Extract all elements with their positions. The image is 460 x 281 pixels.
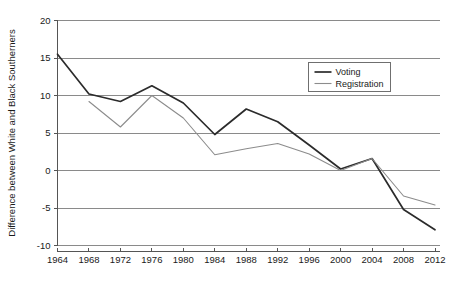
- x-tick-label: 2004: [362, 254, 383, 265]
- y-tick-label: -10: [37, 240, 51, 251]
- x-tick-label: 1988: [236, 254, 257, 265]
- chart-legend: VotingRegistration: [309, 63, 391, 92]
- legend-label-voting: Voting: [336, 67, 361, 77]
- y-tick-label: 0: [45, 165, 50, 176]
- legend-label-registration: Registration: [336, 79, 384, 89]
- y-axis-title-text: Difference between White and Black South…: [6, 29, 17, 237]
- y-tick-label: 15: [40, 52, 51, 63]
- x-tick-label: 2000: [330, 254, 351, 265]
- y-tick-label: 20: [40, 15, 51, 26]
- y-axis-title: Difference between White and Black South…: [6, 29, 17, 237]
- x-tick-label: 1980: [173, 254, 194, 265]
- x-tick-label: 1992: [267, 254, 288, 265]
- x-tick-label: 2012: [424, 254, 445, 265]
- chart-container: 20151050-5-10 19641968197219761980198419…: [0, 0, 460, 281]
- x-tick-label: 1972: [110, 254, 131, 265]
- y-tick-label: 5: [45, 127, 50, 138]
- line-chart: 20151050-5-10 19641968197219761980198419…: [0, 0, 460, 281]
- x-tick-label: 1976: [141, 254, 162, 265]
- x-tick-label: 1984: [204, 254, 225, 265]
- x-tick-label: 2008: [393, 254, 414, 265]
- x-tick-label: 1996: [299, 254, 320, 265]
- x-tick-label: 1964: [47, 254, 68, 265]
- plot-background: [0, 0, 460, 281]
- y-tick-label: -5: [42, 202, 50, 213]
- y-tick-label: 10: [40, 90, 51, 101]
- x-tick-label: 1968: [78, 254, 99, 265]
